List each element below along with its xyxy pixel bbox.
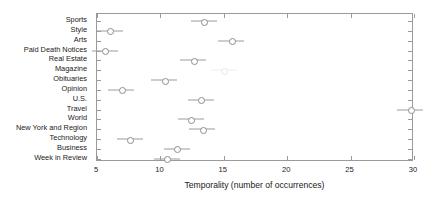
x-axis-tick-mark-top bbox=[287, 14, 288, 18]
data-point-marker bbox=[107, 28, 114, 35]
data-point bbox=[92, 46, 118, 56]
y-axis-tick-mark bbox=[97, 41, 101, 42]
data-point-marker bbox=[201, 19, 208, 26]
data-point bbox=[180, 55, 206, 65]
y-axis-tick-mark bbox=[97, 110, 101, 111]
y-axis-labels: SportsStyleArtsPaid Death NoticesReal Es… bbox=[0, 13, 92, 161]
x-axis-tick-mark bbox=[97, 156, 98, 160]
y-axis-tick-mark bbox=[97, 80, 101, 81]
y-axis-tick-mark bbox=[97, 100, 101, 101]
y-axis-tick-mark-right bbox=[408, 41, 412, 42]
y-axis-tick-mark bbox=[97, 70, 101, 71]
data-point bbox=[218, 36, 244, 46]
data-point-marker bbox=[164, 156, 171, 163]
data-point bbox=[178, 114, 204, 124]
y-axis-tick-mark-right bbox=[408, 31, 412, 32]
y-axis-tick-label: Travel bbox=[67, 105, 87, 112]
y-axis-tick-mark bbox=[97, 139, 101, 140]
x-axis-tick-label: 25 bbox=[345, 165, 353, 174]
x-axis-tick-label: 30 bbox=[409, 165, 417, 174]
y-axis-tick-mark-right bbox=[408, 149, 412, 150]
x-axis-tick-mark-top bbox=[97, 14, 98, 18]
x-axis-tick-mark-top bbox=[414, 14, 415, 18]
y-axis-tick-label: Style bbox=[71, 26, 87, 33]
x-axis-tick-label: 15 bbox=[219, 165, 227, 174]
y-axis-tick-mark-right bbox=[408, 119, 412, 120]
y-axis-tick-label: U.S. bbox=[73, 95, 87, 102]
y-axis-tick-mark-right bbox=[408, 21, 412, 22]
y-axis-tick-mark bbox=[97, 60, 101, 61]
y-axis-tick-mark-right bbox=[408, 100, 412, 101]
x-axis-tick-label: 10 bbox=[155, 165, 163, 174]
y-axis-tick-mark bbox=[97, 149, 101, 150]
x-axis-tick-mark bbox=[224, 156, 225, 160]
data-point bbox=[151, 75, 177, 85]
data-point bbox=[108, 85, 134, 95]
y-axis-tick-label: Business bbox=[57, 144, 87, 151]
data-point bbox=[191, 16, 217, 26]
y-axis-tick-label: Arts bbox=[74, 36, 87, 43]
data-point-marker bbox=[188, 117, 195, 124]
plot-area bbox=[96, 13, 413, 161]
scatter-chart: SportsStyleArtsPaid Death NoticesReal Es… bbox=[0, 0, 434, 200]
y-axis-tick-mark-right bbox=[408, 60, 412, 61]
y-axis-tick-mark-right bbox=[408, 80, 412, 81]
y-axis-tick-label: Magazine bbox=[55, 66, 87, 73]
data-point-marker bbox=[229, 38, 236, 45]
y-axis-tick-label: New York and Region bbox=[16, 125, 87, 132]
y-axis-tick-label: Paid Death Notices bbox=[24, 46, 87, 53]
x-axis-tick-label: 5 bbox=[94, 165, 98, 174]
data-point-marker bbox=[102, 48, 109, 55]
y-axis-tick-mark bbox=[97, 129, 101, 130]
data-point-marker bbox=[200, 127, 207, 134]
y-axis-tick-label: Opinion bbox=[62, 85, 87, 92]
y-axis-tick-mark bbox=[97, 119, 101, 120]
data-point bbox=[164, 144, 190, 154]
y-axis-tick-mark-right bbox=[408, 70, 412, 71]
x-axis-tick-mark-top bbox=[160, 14, 161, 18]
y-axis-tick-label: Obituaries bbox=[53, 75, 87, 82]
y-axis-tick-mark-right bbox=[408, 139, 412, 140]
y-axis-tick-mark-right bbox=[408, 129, 412, 130]
data-point bbox=[397, 105, 423, 115]
data-point bbox=[188, 95, 214, 105]
y-axis-tick-label: Technology bbox=[50, 134, 87, 141]
data-point bbox=[189, 124, 215, 134]
data-point-marker bbox=[408, 107, 415, 114]
x-axis-tick-mark bbox=[287, 156, 288, 160]
x-axis-tick-mark bbox=[414, 156, 415, 160]
data-point bbox=[117, 134, 143, 144]
y-axis-tick-label: World bbox=[68, 115, 87, 122]
y-axis-tick-mark-right bbox=[408, 51, 412, 52]
data-point-marker bbox=[119, 87, 126, 94]
data-point-marker bbox=[198, 97, 205, 104]
data-point-marker bbox=[191, 58, 198, 65]
data-point-marker bbox=[127, 137, 134, 144]
x-axis-title: Temporality (number of occurrences) bbox=[96, 180, 413, 190]
data-point bbox=[97, 26, 123, 36]
data-point-marker bbox=[221, 68, 228, 75]
y-axis-tick-mark bbox=[97, 90, 101, 91]
y-axis-tick-mark bbox=[97, 21, 101, 22]
y-axis-tick-label: Real Estate bbox=[49, 56, 87, 63]
y-axis-tick-mark-right bbox=[408, 159, 412, 160]
x-axis-tick-label: 20 bbox=[282, 165, 290, 174]
data-point-marker bbox=[174, 146, 181, 153]
y-axis-tick-label: Week in Review bbox=[34, 154, 87, 161]
x-axis-tick-mark-top bbox=[351, 14, 352, 18]
x-axis-tick-mark bbox=[351, 156, 352, 160]
data-point-marker bbox=[162, 78, 169, 85]
y-axis-tick-label: Sports bbox=[66, 16, 87, 23]
data-point bbox=[154, 154, 180, 164]
y-axis-tick-mark-right bbox=[408, 90, 412, 91]
data-point bbox=[211, 65, 237, 75]
x-axis-tick-mark-top bbox=[224, 14, 225, 18]
